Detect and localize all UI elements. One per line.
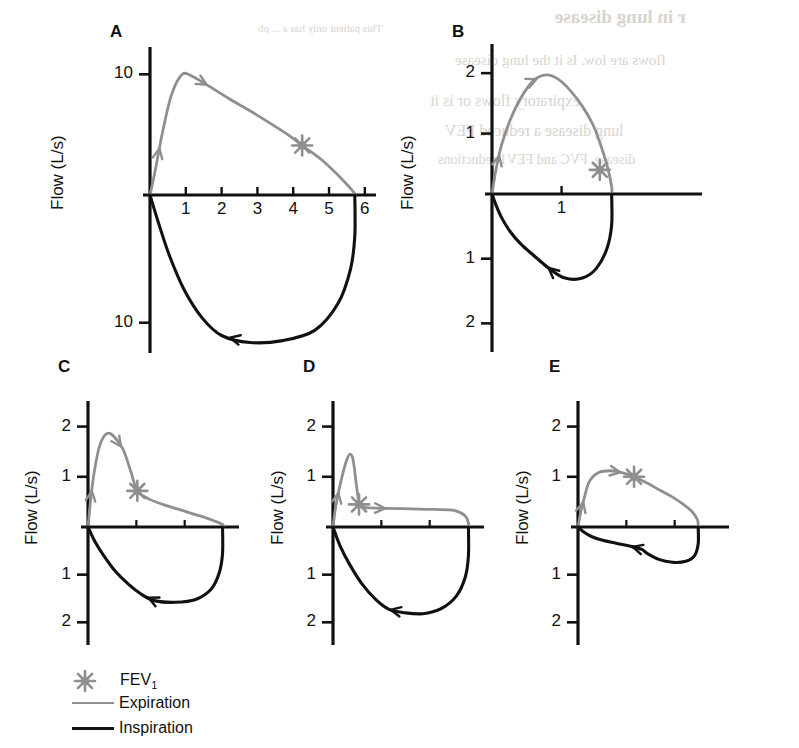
- legend-label-inspiration: Inspiration: [119, 719, 193, 737]
- legend-label-fev1-subscript: 1: [151, 679, 157, 691]
- legend-item-fev1: FEV1: [72, 668, 157, 694]
- legend: FEV1ExpirationInspiration: [72, 668, 312, 738]
- legend-item-inspiration: Inspiration: [72, 719, 193, 737]
- asterisk-marker-icon-glyph: [75, 671, 95, 691]
- line-swatch-inspiration-icon: [72, 727, 114, 730]
- plot-e: [0, 0, 799, 748]
- fev1-asterisk-marker: [624, 467, 644, 487]
- asterisk-marker-icon: [72, 668, 98, 694]
- legend-label-expiration: Expiration: [119, 694, 190, 712]
- legend-label-fev1: FEV1: [120, 671, 157, 691]
- flow-volume-loop-figure: r in lung diseaseThis patient only has a…: [0, 0, 799, 748]
- panel-e: EFlow (L/s)1212: [0, 0, 799, 748]
- line-swatch-expiration-icon: [72, 702, 114, 704]
- legend-label-fev1-text: FEV: [120, 671, 151, 688]
- legend-item-expiration: Expiration: [72, 694, 190, 712]
